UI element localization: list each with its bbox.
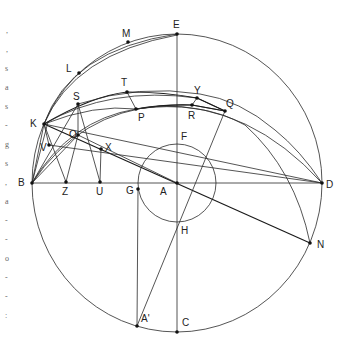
line-S-U [78,104,100,182]
point-P [134,107,138,111]
svg-text:,: , [6,26,8,35]
svg-text:-: - [5,292,8,301]
line-V-D [49,145,322,183]
line-O-X-A [78,135,177,183]
label-C: C [182,317,189,328]
point-G [136,187,140,191]
label-M: M [122,28,130,39]
line-Aprime-Q [137,111,225,326]
svg-text:-: - [5,273,8,282]
line-B-S [32,104,78,183]
arc-K-L-M-E-outer [44,34,177,124]
geometry-diagram: , , s a s - g s , a - - o - - : [0,0,350,351]
arc-K-L-M-E-inner [44,35,177,124]
line-G-Aprime [137,189,138,326]
arc-S-T-continued [78,91,322,183]
point-X [99,147,103,151]
point-B [30,181,34,185]
svg-text:-: - [5,235,8,244]
svg-text:s: s [5,102,8,111]
line-B-O [32,135,78,183]
label-L: L [66,63,72,74]
label-O: O [69,129,77,140]
label-D: D [326,179,333,190]
label-Z: Z [62,186,68,197]
svg-text:,: , [6,45,8,54]
label-G: G [126,185,134,196]
label-F: F [181,131,187,142]
label-S: S [73,91,80,102]
arc-O-P-R-Q [44,105,225,124]
point-Y [195,96,199,100]
point-S [76,102,80,106]
svg-text::: : [5,311,7,320]
svg-text:a: a [5,83,9,92]
point-M [126,40,130,44]
segment-T-P [127,92,136,109]
point-L [77,71,81,75]
point-E [175,32,179,36]
margin-text-column: , , s a s - g s , a - - o - - : [5,26,9,320]
label-B: B [18,177,25,188]
point-Aprime [135,324,139,328]
label-U: U [96,186,103,197]
label-P: P [138,112,145,123]
point-N [308,241,312,245]
line-X-U [100,149,101,182]
label-A: A [160,186,167,197]
svg-text:-: - [5,216,8,225]
label-E: E [173,19,180,30]
label-K: K [30,118,37,129]
point-R [190,103,194,107]
point-C [175,330,179,334]
svg-text:-: - [5,121,8,130]
label-Y: Y [194,85,201,96]
point-A [175,181,179,185]
label-V: V [40,142,47,153]
point-U [98,180,102,184]
point-D [320,181,324,185]
svg-text:a: a [5,197,9,206]
label-N: N [317,239,324,250]
point-Z [64,180,68,184]
segment-R-Q [192,105,225,111]
label-Q: Q [226,98,234,109]
line-O-Z [66,135,78,182]
label-Aprime: A' [141,313,150,324]
point-Q [223,109,227,113]
label-R: R [188,110,195,121]
label-X: X [105,142,112,153]
point-T [125,90,129,94]
arc-B-O-P-Q-N [32,107,310,243]
point-K [42,122,46,126]
label-H: H [181,225,188,236]
svg-text:s: s [5,159,8,168]
svg-text:g: g [5,140,9,149]
point-V [47,143,51,147]
svg-text:,: , [5,178,7,187]
svg-text:s: s [5,64,8,73]
label-T: T [121,77,127,88]
svg-text:o: o [5,254,9,263]
